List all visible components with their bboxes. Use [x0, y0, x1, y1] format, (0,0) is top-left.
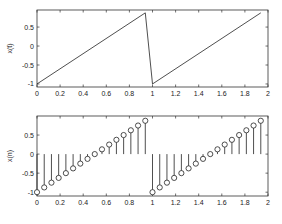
- x-tick-label: 1.4: [194, 199, 204, 206]
- stem-marker: [200, 156, 205, 161]
- y-axis-label: x(n): [6, 150, 14, 162]
- stem-marker: [157, 185, 162, 190]
- y-tick-label: -0.5: [22, 170, 34, 177]
- x-tick-label: 1.2: [171, 90, 181, 97]
- stem-marker: [150, 190, 155, 195]
- x-tick-label: 1.6: [217, 90, 227, 97]
- stem-marker: [121, 132, 126, 137]
- stem-marker: [42, 185, 47, 190]
- stem-marker: [99, 147, 104, 152]
- stem-marker: [186, 166, 191, 171]
- axes-box: [37, 10, 268, 87]
- stem-marker: [49, 180, 54, 185]
- x-tick-label: 0.4: [78, 90, 88, 97]
- x-tick-label: 1.4: [194, 90, 204, 97]
- stem-marker: [244, 128, 249, 133]
- x-tick-label: 0.8: [125, 199, 135, 206]
- x-tick-label: 0.6: [101, 199, 111, 206]
- stem-marker: [258, 118, 263, 123]
- stem-marker: [63, 171, 68, 176]
- stem-marker: [164, 180, 169, 185]
- stem-marker: [135, 123, 140, 128]
- bottom-plot-sampled-signal: 00.20.40.60.811.21.41.61.82-1-0.500.5x(n…: [6, 116, 270, 206]
- stem-marker: [85, 156, 90, 161]
- x-tick-label: 2: [266, 199, 270, 206]
- stem-marker: [143, 118, 148, 123]
- y-tick-label: 0.5: [24, 132, 34, 139]
- y-tick-label: -1: [28, 80, 34, 87]
- x-tick-label: 1: [151, 199, 155, 206]
- y-tick-label: 0: [30, 151, 34, 158]
- x-tick-label: 0: [35, 199, 39, 206]
- x-tick-label: 1: [151, 90, 155, 97]
- y-axis-label: x(t): [6, 43, 14, 53]
- x-tick-label: 1.8: [240, 90, 250, 97]
- x-tick-label: 0.6: [101, 90, 111, 97]
- stem-marker: [215, 147, 220, 152]
- stem-marker: [179, 171, 184, 176]
- stem-marker: [114, 137, 119, 142]
- stem-marker: [78, 161, 83, 166]
- x-tick-label: 0.4: [78, 199, 88, 206]
- stem-marker: [222, 142, 227, 147]
- x-tick-label: 2: [266, 90, 270, 97]
- stem-marker: [56, 175, 61, 180]
- x-tick-label: 0.8: [125, 90, 135, 97]
- x-tick-label: 0: [35, 90, 39, 97]
- y-tick-label: 0.5: [24, 24, 34, 31]
- y-tick-label: -1: [28, 189, 34, 196]
- y-tick-label: -0.5: [22, 62, 34, 69]
- stem-marker: [208, 151, 213, 156]
- y-tick-label: 0: [30, 43, 34, 50]
- stem-marker: [229, 137, 234, 142]
- stem-marker: [172, 175, 177, 180]
- stem-marker: [128, 128, 133, 133]
- top-plot-continuous-signal: 00.20.40.60.811.21.41.61.82-1-0.500.5x(t…: [6, 10, 270, 97]
- figure-canvas: 00.20.40.60.811.21.41.61.82-1-0.500.5x(t…: [0, 0, 282, 224]
- x-tick-label: 1.6: [217, 199, 227, 206]
- stem-marker: [107, 142, 112, 147]
- x-tick-label: 0.2: [55, 90, 65, 97]
- x-tick-label: 1.2: [171, 199, 181, 206]
- x-tick-label: 1.8: [240, 199, 250, 206]
- stem-marker: [193, 161, 198, 166]
- stem-marker: [251, 123, 256, 128]
- signal-line: [37, 13, 261, 84]
- x-tick-label: 0.2: [55, 199, 65, 206]
- stem-marker: [70, 166, 75, 171]
- stem-marker: [237, 132, 242, 137]
- stem-marker: [34, 190, 39, 195]
- stem-marker: [92, 151, 97, 156]
